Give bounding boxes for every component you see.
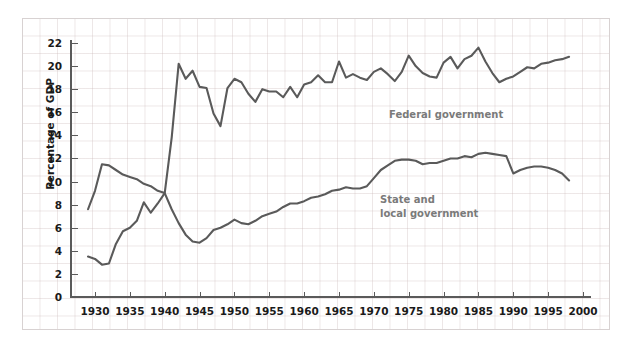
chart-page: Percentage of GDP 0246810121416182022 19… — [0, 0, 626, 347]
y-tick-label: 2 — [22, 269, 62, 280]
series-line-state — [88, 153, 569, 243]
series-label-federal: Federal government — [389, 108, 503, 122]
y-tick-label: 18 — [22, 84, 62, 95]
y-tick-label: 8 — [22, 200, 62, 211]
x-tick-label: 2000 — [560, 306, 606, 317]
plot-area — [70, 43, 589, 297]
series-line-federal — [88, 48, 569, 265]
y-tick-label: 6 — [22, 223, 62, 234]
series-label-state: State and local government — [380, 193, 478, 220]
y-tick-label: 0 — [22, 292, 62, 303]
y-tick-label: 12 — [22, 153, 62, 164]
y-tick-label: 16 — [22, 107, 62, 118]
y-tick-label: 4 — [22, 246, 62, 257]
y-tick-label: 20 — [22, 61, 62, 72]
y-tick-mark — [72, 297, 78, 298]
y-tick-label: 10 — [22, 177, 62, 188]
y-tick-label: 14 — [22, 130, 62, 141]
y-tick-label: 22 — [22, 38, 62, 49]
